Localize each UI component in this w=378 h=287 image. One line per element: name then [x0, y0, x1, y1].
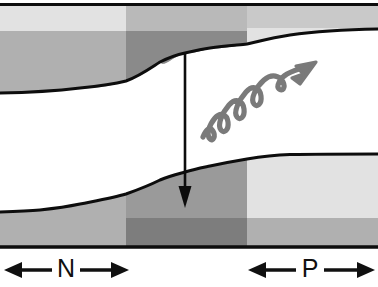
photon-emission-wave-arrow — [203, 62, 316, 140]
n-region-axis-arrow: N — [4, 254, 129, 282]
photon-arrow-head — [292, 62, 316, 84]
band-diagram-figure: N P — [0, 0, 378, 287]
valence-band-p-light-subband — [247, 140, 378, 218]
valence-band-depletion-overlay — [126, 140, 247, 218]
conduction-band-n-subband — [0, 31, 126, 121]
valence-band-depletion-dark-overlay — [126, 218, 247, 250]
p-region-axis-arrow: P — [248, 254, 375, 282]
valence-band-group — [0, 140, 378, 250]
n-arrow-head-right — [111, 262, 129, 278]
n-region-label: N — [57, 254, 75, 282]
n-arrow-head-left — [4, 262, 22, 278]
p-arrow-head-left — [248, 262, 266, 278]
p-arrow-head-right — [357, 262, 375, 278]
conduction-band-p-subband — [247, 4, 378, 28]
band-diagram-canvas: N P — [0, 0, 378, 287]
conduction-band-group — [0, 0, 378, 121]
p-region-label: P — [302, 254, 319, 282]
